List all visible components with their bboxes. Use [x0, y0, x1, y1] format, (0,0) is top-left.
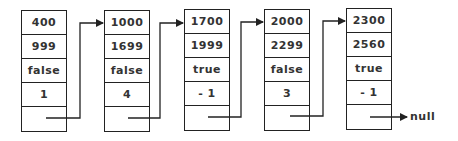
node-cell: 2300	[347, 9, 391, 33]
list-node-1: 400 999 false 1	[21, 10, 67, 132]
node-cell: 2299	[265, 34, 309, 58]
node-cell: 999	[22, 35, 66, 59]
null-terminator-label: null	[410, 110, 435, 123]
node-cell: true	[347, 57, 391, 81]
node-cell: 1700	[185, 10, 229, 34]
node-cell: 3	[265, 82, 309, 106]
list-node-4: 2000 2299 false 3	[264, 9, 310, 131]
node-cell: 400	[22, 11, 66, 35]
next-pointer-cell	[265, 106, 309, 130]
node-cell: 4	[105, 83, 149, 107]
next-pointer-cell	[347, 105, 391, 129]
node-cell: - 1	[185, 82, 229, 106]
list-node-3: 1700 1999 true - 1	[184, 9, 230, 131]
next-pointer-cell	[22, 107, 66, 131]
node-cell: false	[105, 59, 149, 83]
node-cell: false	[22, 59, 66, 83]
node-cell: 1699	[105, 35, 149, 59]
node-cell: - 1	[347, 81, 391, 105]
node-cell: 2000	[265, 10, 309, 34]
node-cell: 1000	[105, 11, 149, 35]
node-cell: false	[265, 58, 309, 82]
node-cell: true	[185, 58, 229, 82]
list-node-5: 2300 2560 true - 1	[346, 8, 392, 130]
node-cell: 1	[22, 83, 66, 107]
node-cell: 1999	[185, 34, 229, 58]
next-pointer-cell	[105, 107, 149, 131]
list-node-2: 1000 1699 false 4	[104, 10, 150, 132]
node-cell: 2560	[347, 33, 391, 57]
next-pointer-cell	[185, 106, 229, 130]
